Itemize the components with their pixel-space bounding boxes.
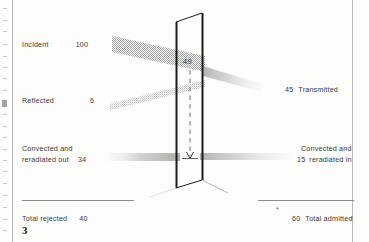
convected-out-row: Convected and reradiated out34 xyxy=(22,144,86,165)
convected-out-label-line2: reradiated out xyxy=(22,155,69,164)
total-admitted-value: 60 xyxy=(292,214,300,225)
reflected-row: Reflected6 xyxy=(22,96,94,107)
convected-in-value: 15 xyxy=(297,155,305,166)
total-rejected-row: Total rejected40 xyxy=(22,214,88,225)
total-rejected-label: Total rejected xyxy=(22,214,67,223)
beam-convected-out xyxy=(108,153,180,161)
absorbed-value-label: 49 xyxy=(183,57,192,68)
total-admitted-rule xyxy=(258,200,354,201)
convected-out-value: 34 xyxy=(78,155,86,166)
transmitted-value: 45 xyxy=(285,85,293,96)
reflected-value: 6 xyxy=(90,96,94,107)
convected-in-label-line2: reradiated in xyxy=(309,155,351,164)
incident-value: 100 xyxy=(76,40,89,51)
beam-reflected xyxy=(110,80,205,110)
total-rejected-value: 40 xyxy=(79,214,87,225)
transmitted-row: 45Transmitted xyxy=(285,85,338,96)
incident-row: Incident100 xyxy=(22,40,88,51)
energy-flow-diagram xyxy=(0,0,369,242)
transmitted-label: Transmitted xyxy=(298,85,338,94)
reflected-label: Reflected xyxy=(22,96,54,105)
figure-page: 49 Incident100 Reflected6 Convected and … xyxy=(0,0,369,242)
footnote-asterisk: * xyxy=(276,206,279,213)
figure-number: 3 xyxy=(22,224,28,236)
beam-transmitted xyxy=(203,66,262,92)
incident-label: Incident xyxy=(22,40,49,49)
convected-out-label-line1: Convected and xyxy=(22,144,73,153)
total-admitted-label: Total admitted xyxy=(305,214,352,223)
beam-convected-in xyxy=(200,153,292,160)
glass-pane xyxy=(150,13,228,197)
convected-in-label-line1: Convected and xyxy=(301,144,352,153)
convected-in-row: Convected and 15reradiated in xyxy=(297,144,352,165)
total-rejected-rule xyxy=(22,200,134,201)
total-admitted-row: 60Total admitted xyxy=(292,214,353,225)
